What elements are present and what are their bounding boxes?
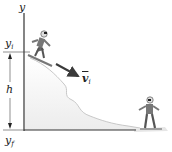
velocity-label: vi — [82, 73, 91, 86]
height-label: h — [6, 84, 13, 95]
height-arrowhead-up — [8, 53, 12, 59]
y-initial-label: yi — [5, 38, 13, 51]
velocity-arrow — [56, 64, 78, 76]
height-arrowhead-down — [8, 123, 12, 129]
y-final-label: yf — [5, 135, 14, 148]
y-initial-sub: i — [11, 43, 13, 51]
snowboarder-final — [139, 97, 162, 129]
snow-slope — [25, 58, 140, 130]
y-axis-label: y — [19, 2, 25, 13]
y-final-sub: f — [11, 140, 14, 148]
velocity-sub: i — [88, 78, 90, 86]
